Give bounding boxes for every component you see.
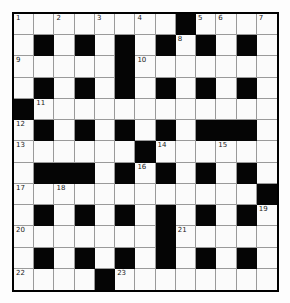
- answer-cell[interactable]: [54, 205, 74, 226]
- answer-cell[interactable]: [135, 35, 155, 56]
- answer-cell[interactable]: 13: [14, 141, 34, 162]
- answer-cell[interactable]: [257, 226, 277, 247]
- answer-cell[interactable]: [54, 141, 74, 162]
- answer-cell[interactable]: [176, 205, 196, 226]
- answer-cell[interactable]: [156, 184, 176, 205]
- answer-cell[interactable]: [95, 226, 115, 247]
- answer-cell[interactable]: [216, 99, 236, 120]
- answer-cell[interactable]: [115, 99, 135, 120]
- answer-cell[interactable]: [75, 56, 95, 77]
- answer-cell[interactable]: 9: [14, 56, 34, 77]
- answer-cell[interactable]: [135, 269, 155, 290]
- answer-cell[interactable]: [135, 78, 155, 99]
- answer-cell[interactable]: [216, 35, 236, 56]
- answer-cell[interactable]: [257, 248, 277, 269]
- answer-cell[interactable]: [95, 141, 115, 162]
- answer-cell[interactable]: [216, 248, 236, 269]
- answer-cell[interactable]: [54, 248, 74, 269]
- answer-cell[interactable]: [257, 78, 277, 99]
- answer-cell[interactable]: 10: [135, 56, 155, 77]
- answer-cell[interactable]: 8: [176, 35, 196, 56]
- answer-cell[interactable]: [75, 141, 95, 162]
- answer-cell[interactable]: 19: [257, 205, 277, 226]
- answer-cell[interactable]: 4: [135, 14, 155, 35]
- answer-cell[interactable]: 11: [34, 99, 54, 120]
- answer-cell[interactable]: [176, 78, 196, 99]
- answer-cell[interactable]: [257, 120, 277, 141]
- answer-cell[interactable]: 23: [115, 269, 135, 290]
- answer-cell[interactable]: [95, 163, 115, 184]
- answer-cell[interactable]: 18: [54, 184, 74, 205]
- answer-cell[interactable]: [216, 163, 236, 184]
- answer-cell[interactable]: [95, 35, 115, 56]
- answer-cell[interactable]: 14: [156, 141, 176, 162]
- answer-cell[interactable]: [34, 141, 54, 162]
- answer-cell[interactable]: 16: [135, 163, 155, 184]
- answer-cell[interactable]: 7: [257, 14, 277, 35]
- answer-cell[interactable]: [216, 78, 236, 99]
- answer-cell[interactable]: 1: [14, 14, 34, 35]
- answer-cell[interactable]: [34, 226, 54, 247]
- answer-cell[interactable]: [95, 99, 115, 120]
- answer-cell[interactable]: 2: [54, 14, 74, 35]
- answer-cell[interactable]: [135, 248, 155, 269]
- answer-cell[interactable]: [14, 248, 34, 269]
- answer-cell[interactable]: [156, 56, 176, 77]
- answer-cell[interactable]: [75, 269, 95, 290]
- answer-cell[interactable]: [75, 14, 95, 35]
- answer-cell[interactable]: [115, 14, 135, 35]
- answer-cell[interactable]: 22: [14, 269, 34, 290]
- answer-cell[interactable]: [34, 14, 54, 35]
- answer-cell[interactable]: [216, 56, 236, 77]
- answer-cell[interactable]: [156, 99, 176, 120]
- answer-cell[interactable]: 20: [14, 226, 34, 247]
- answer-cell[interactable]: [257, 35, 277, 56]
- answer-cell[interactable]: [54, 120, 74, 141]
- answer-cell[interactable]: [135, 99, 155, 120]
- answer-cell[interactable]: 15: [216, 141, 236, 162]
- answer-cell[interactable]: [257, 269, 277, 290]
- answer-cell[interactable]: [54, 56, 74, 77]
- answer-cell[interactable]: [54, 226, 74, 247]
- answer-cell[interactable]: 3: [95, 14, 115, 35]
- answer-cell[interactable]: [176, 248, 196, 269]
- answer-cell[interactable]: [176, 269, 196, 290]
- answer-cell[interactable]: [95, 78, 115, 99]
- answer-cell[interactable]: 6: [216, 14, 236, 35]
- answer-cell[interactable]: [196, 184, 216, 205]
- answer-cell[interactable]: [176, 120, 196, 141]
- answer-cell[interactable]: [216, 269, 236, 290]
- answer-cell[interactable]: [54, 99, 74, 120]
- answer-cell[interactable]: [115, 184, 135, 205]
- answer-cell[interactable]: [237, 184, 257, 205]
- answer-cell[interactable]: [75, 184, 95, 205]
- answer-cell[interactable]: [237, 99, 257, 120]
- answer-cell[interactable]: [54, 78, 74, 99]
- answer-cell[interactable]: [237, 14, 257, 35]
- answer-cell[interactable]: [34, 269, 54, 290]
- answer-cell[interactable]: [237, 141, 257, 162]
- answer-cell[interactable]: [135, 120, 155, 141]
- answer-cell[interactable]: [115, 226, 135, 247]
- answer-cell[interactable]: [135, 226, 155, 247]
- answer-cell[interactable]: [14, 35, 34, 56]
- answer-cell[interactable]: [196, 269, 216, 290]
- answer-cell[interactable]: [257, 141, 277, 162]
- answer-cell[interactable]: [257, 163, 277, 184]
- answer-cell[interactable]: [54, 35, 74, 56]
- answer-cell[interactable]: [75, 99, 95, 120]
- answer-cell[interactable]: [176, 141, 196, 162]
- answer-cell[interactable]: [216, 226, 236, 247]
- answer-cell[interactable]: [34, 184, 54, 205]
- answer-cell[interactable]: [34, 56, 54, 77]
- answer-cell[interactable]: 5: [196, 14, 216, 35]
- answer-cell[interactable]: [75, 226, 95, 247]
- answer-cell[interactable]: [237, 269, 257, 290]
- answer-cell[interactable]: [196, 226, 216, 247]
- answer-cell[interactable]: [14, 163, 34, 184]
- answer-cell[interactable]: [156, 269, 176, 290]
- answer-cell[interactable]: [14, 205, 34, 226]
- answer-cell[interactable]: [196, 99, 216, 120]
- answer-cell[interactable]: [14, 78, 34, 99]
- answer-cell[interactable]: 21: [176, 226, 196, 247]
